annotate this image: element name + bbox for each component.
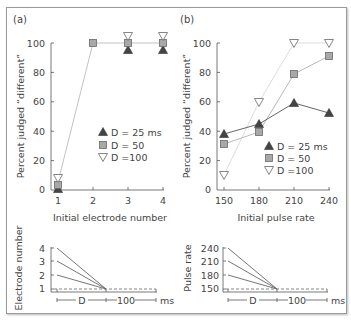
b-xtick-240: 240 — [320, 195, 338, 206]
a-ytick-0: 0 — [39, 184, 45, 195]
b-ytick-20: 20 — [199, 155, 211, 166]
b-xtick-180: 180 — [250, 195, 268, 206]
b-marker-d100 — [290, 40, 299, 48]
a-ytick-80: 80 — [33, 67, 45, 78]
b-line-d50 — [224, 56, 329, 144]
sb-d-label: D — [249, 295, 256, 306]
schematic-a: Electrode number 4 3 2 1 — [13, 225, 174, 310]
a-xtick-2: 2 — [90, 195, 96, 206]
panel-b-label: (b) — [180, 14, 194, 25]
panel-a: (a) 0 20 40 60 80 100 Percent judged “di… — [13, 14, 168, 223]
a-xtick-4: 4 — [160, 195, 166, 206]
a-marker-d50 — [90, 40, 97, 47]
a-xtick-1: 1 — [55, 195, 61, 206]
b-marker-d50 — [256, 129, 263, 136]
b-marker-d25 — [255, 120, 264, 128]
a-ylabel: Percent judged “different” — [15, 54, 26, 179]
b-marker-d100 — [255, 99, 264, 107]
sa-ytick-1: 1 — [39, 283, 45, 294]
a-xtick-3: 3 — [125, 195, 131, 206]
sb-ytick-180: 180 — [201, 270, 219, 281]
b-marker-d50 — [326, 53, 333, 60]
b-legend-d25: D = 25 ms — [277, 141, 328, 152]
sa-ytick-3: 3 — [39, 256, 45, 267]
b-xtick-210: 210 — [285, 195, 303, 206]
a-legend-d100: D =100 — [111, 152, 147, 163]
a-ytick-40: 40 — [33, 126, 45, 137]
a-legend-d50: D = 50 — [111, 140, 144, 151]
b-xtick-150: 150 — [215, 195, 233, 206]
figure-canvas: (a) 0 20 40 60 80 100 Percent judged “di… — [0, 0, 351, 325]
b-ytick-100: 100 — [193, 38, 211, 49]
a-xlabel: Initial electrode number — [53, 212, 167, 223]
b-ylabel: Percent judged “different” — [181, 54, 192, 179]
schematic-b: Pulse rate 240 210 180 150 — [182, 243, 345, 306]
sa-ytick-4: 4 — [39, 243, 45, 254]
b-marker-d50 — [291, 71, 298, 78]
b-xlabel: Initial pulse rate — [237, 212, 314, 223]
a-legend-d25: D = 25 ms — [111, 127, 162, 138]
b-marker-d50 — [221, 141, 228, 148]
b-ytick-80: 80 — [199, 67, 211, 78]
b-line-d25 — [224, 103, 329, 134]
sa-100-label: 100 — [117, 295, 135, 306]
a-ytick-60: 60 — [33, 96, 45, 107]
b-marker-d25 — [290, 99, 299, 107]
panel-b: (b) 0 20 40 60 80 100 Percent judged “di… — [180, 14, 338, 223]
b-legend-d100: D =100 — [277, 165, 313, 176]
sb-100-label: 100 — [288, 295, 306, 306]
a-ytick-100: 100 — [27, 38, 45, 49]
sb-ytick-210: 210 — [201, 256, 219, 267]
sa-d-label: D — [78, 295, 85, 306]
b-ytick-40: 40 — [199, 126, 211, 137]
schematic-b-ylabel: Pulse rate — [182, 244, 193, 291]
b-legend: D = 25 ms D = 50 D =100 — [265, 141, 328, 176]
sa-ytick-2: 2 — [39, 270, 45, 281]
b-legend-d50: D = 50 — [277, 153, 310, 164]
panel-a-label: (a) — [13, 14, 27, 25]
sb-ms-label: ms — [331, 295, 345, 306]
sb-ytick-150: 150 — [201, 283, 219, 294]
schematic-a-ylabel: Electrode number — [13, 225, 24, 310]
sb-ytick-240: 240 — [201, 243, 219, 254]
b-marker-d100 — [220, 172, 229, 180]
a-ytick-20: 20 — [33, 155, 45, 166]
a-legend: D = 25 ms D = 50 D =100 — [99, 127, 162, 163]
b-ytick-60: 60 — [199, 96, 211, 107]
b-marker-d100 — [325, 40, 334, 48]
b-ytick-0: 0 — [205, 184, 211, 195]
sa-ms-label: ms — [160, 295, 174, 306]
